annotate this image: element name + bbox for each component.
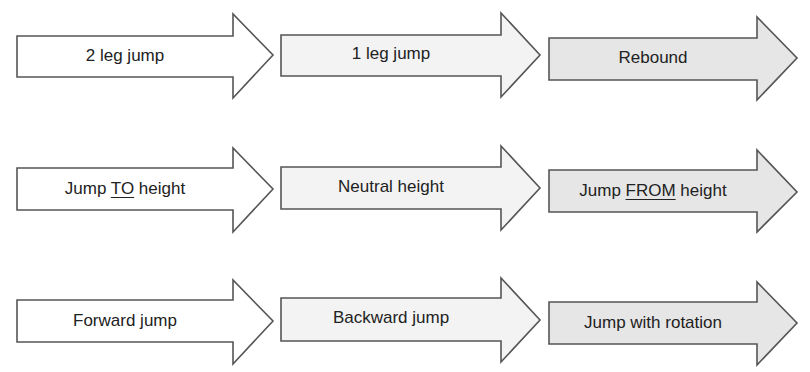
arrow-label: Jump with rotation	[549, 313, 757, 333]
arrow-jump-with-rotation: Jump with rotation	[0, 0, 810, 372]
jump-progression-diagram: 2 leg jump 1 leg jump Rebound Jump TO he…	[0, 0, 810, 372]
